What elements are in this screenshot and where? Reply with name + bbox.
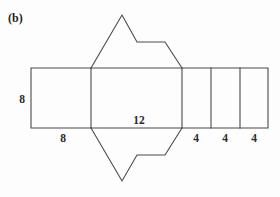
top-flap-polyline (91, 15, 182, 68)
dimension-label-width-rect-3: 4 (193, 132, 199, 144)
geometry-net-diagram: (b) 8 8 12 4 4 4 (0, 0, 280, 197)
dimension-label-width-rect-5: 4 (251, 132, 257, 144)
dimension-label-width-rect-4: 4 (222, 132, 228, 144)
bottom-flap-polyline (91, 128, 182, 181)
dimension-label-height-left: 8 (19, 93, 25, 105)
figure-container: (b) 8 8 12 4 4 4 (0, 0, 280, 197)
strip-outline (31, 68, 268, 128)
dimension-label-width-left-rect: 8 (60, 132, 66, 144)
part-label: (b) (8, 11, 23, 25)
dimension-label-width-center-rect: 12 (133, 114, 145, 126)
